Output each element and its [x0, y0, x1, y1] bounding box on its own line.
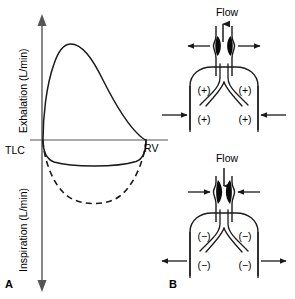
pressure-sign-lower-right: (−): [238, 259, 251, 271]
flow-label-exhalation: Flow: [216, 6, 239, 18]
panel-label-b: B: [169, 278, 177, 290]
airway-collapse-left: [216, 180, 222, 204]
pressure-sign-lower-left: (−): [197, 259, 210, 271]
axis-label-tlc: TLC: [5, 144, 25, 156]
axis-label-rv: RV: [144, 142, 158, 154]
inspiratory-limb-reduced-curve: [43, 140, 146, 166]
pressure-sign-lower-right: (+): [238, 113, 251, 125]
airway-collapse-right: [226, 180, 232, 204]
axis-label-inspiration: Inspiration (L/min): [17, 188, 29, 272]
axis-arrow-down: [38, 280, 47, 292]
pressure-sign-lower-left: (+): [197, 113, 210, 125]
panel-a-flow-volume-loop: Exhalation (L/min) Inspiration (L/min) T…: [0, 0, 170, 299]
panel-b-bottom-forced-inspiration: Flow: [160, 148, 295, 298]
axis-arrow-up: [38, 14, 47, 26]
panel-b-top-forced-exhalation: Flow: [160, 2, 295, 152]
axis-label-exhalation: Exhalation (L/min): [17, 48, 29, 133]
panel-label-a: A: [5, 278, 13, 290]
figure-container: Exhalation (L/min) Inspiration (L/min) T…: [0, 0, 295, 299]
pressure-sign-upper-right: (+): [238, 84, 251, 96]
inspiratory-limb-normal-curve: [43, 141, 146, 204]
expiratory-limb-curve: [43, 44, 146, 140]
pressure-sign-upper-right: (−): [238, 230, 251, 242]
pressure-sign-upper-left: (+): [197, 84, 210, 96]
flow-label-inspiration: Flow: [216, 152, 239, 164]
pressure-sign-upper-left: (−): [197, 230, 210, 242]
